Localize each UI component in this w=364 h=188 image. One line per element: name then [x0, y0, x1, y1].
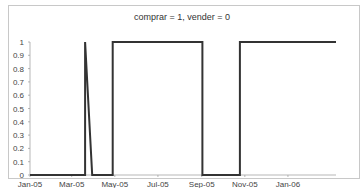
x-tick-label: Mar-05	[59, 180, 85, 188]
x-tick-label: Jan-05	[18, 180, 43, 188]
y-tick-label: 0.4	[13, 118, 25, 127]
y-tick-label: 0.2	[13, 144, 25, 153]
y-axis: 00.10.20.30.40.50.60.70.80.91	[13, 38, 30, 180]
y-tick-label: 0.3	[13, 131, 25, 140]
x-tick-label: Sep-05	[189, 180, 215, 188]
y-tick-label: 0	[20, 171, 25, 180]
chart-plot: 00.10.20.30.40.50.60.70.80.91 Jan-05Mar-…	[0, 0, 364, 188]
x-axis: Jan-05Mar-05May-05Jul-05Sep-05Nov-05Jan-…	[18, 175, 336, 188]
x-tick-label: Nov-05	[232, 180, 258, 188]
signal-line	[30, 42, 336, 175]
y-tick-label: 0.8	[13, 65, 25, 74]
y-tick-label: 0.7	[13, 78, 25, 87]
x-tick-label: Jan-06	[276, 180, 301, 188]
x-tick-label: Jul-05	[147, 180, 169, 188]
y-tick-label: 0.1	[13, 158, 25, 167]
x-tick-label: May-05	[101, 180, 128, 188]
y-tick-label: 0.9	[13, 51, 25, 60]
y-tick-label: 1	[20, 38, 25, 47]
y-tick-label: 0.5	[13, 105, 25, 114]
y-tick-label: 0.6	[13, 91, 25, 100]
